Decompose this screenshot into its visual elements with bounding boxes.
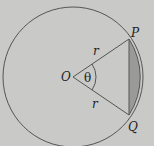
label-angle-theta: θ [84, 71, 91, 85]
label-center-o: O [61, 70, 71, 84]
circle-segment-diagram: O θ P Q r r [0, 0, 154, 146]
label-point-q: Q [128, 120, 138, 134]
label-point-p: P [130, 26, 140, 40]
